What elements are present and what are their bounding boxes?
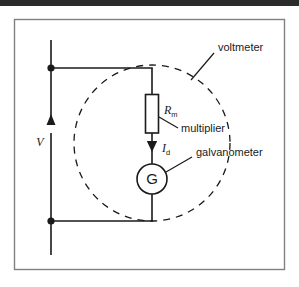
resistor-body — [146, 95, 159, 134]
galvanometer-letter: G — [146, 170, 158, 187]
label-galvanometer: galvanometer — [196, 146, 263, 158]
resistor-symbol-subscript: m — [171, 110, 177, 119]
figure-root: voltmeter multiplier galvanometer G Rm I… — [0, 0, 299, 287]
label-voltmeter: voltmeter — [218, 41, 264, 53]
node-dot-top — [47, 64, 54, 71]
label-multiplier: multiplier — [181, 122, 225, 134]
circuit-diagram-canvas: voltmeter multiplier galvanometer G Rm I… — [0, 0, 299, 287]
node-dot-bottom — [47, 217, 54, 224]
current-symbol-subscript: d — [166, 148, 170, 157]
